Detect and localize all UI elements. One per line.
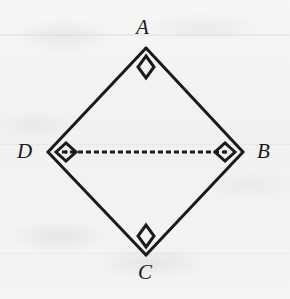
vertex-label-D: D xyxy=(17,141,32,162)
figure-canvas xyxy=(0,0,290,299)
geometry-figure: A B C D xyxy=(0,0,290,299)
vertex-label-B: B xyxy=(257,141,270,162)
edge-AB xyxy=(146,48,243,152)
edge-DA xyxy=(48,48,146,152)
edge-CD xyxy=(48,152,146,255)
right-angle-dot-D xyxy=(64,150,67,153)
edge-BC xyxy=(146,152,243,255)
vertex-label-C: C xyxy=(138,262,152,283)
vertex-label-A: A xyxy=(136,17,149,38)
right-angle-marker-C xyxy=(138,225,154,247)
right-angle-marker-A xyxy=(138,56,154,78)
right-angle-dot-B xyxy=(223,150,226,153)
